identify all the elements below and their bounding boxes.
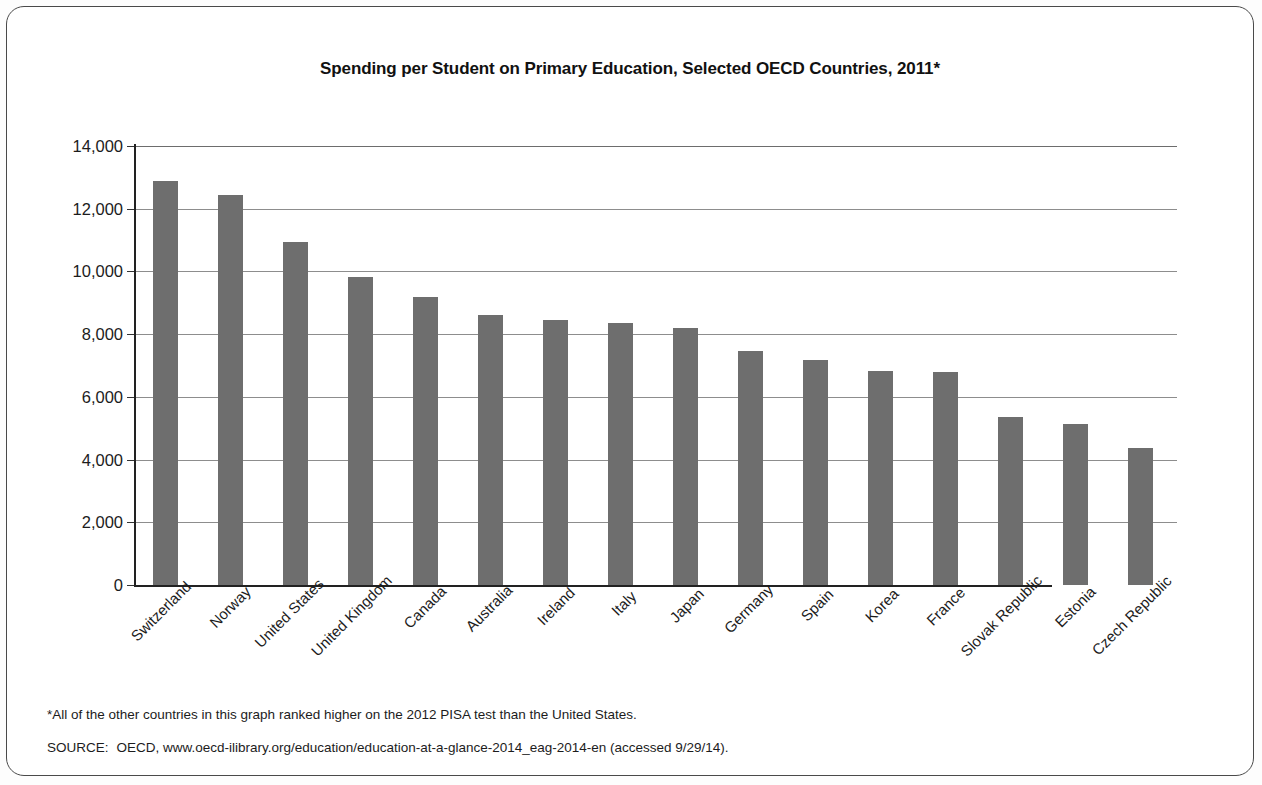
y-tick-label: 12,000 (73, 199, 123, 218)
plot-area: 02,0004,0006,0008,00010,00012,00014,000 (134, 146, 1177, 585)
y-tick-mark (127, 209, 134, 210)
x-tick-label: Slovak Republic (957, 572, 1045, 660)
x-tick-label: Norway (206, 583, 254, 631)
y-tick-mark (127, 397, 134, 398)
bar (218, 195, 243, 585)
x-tick-label: Spain (797, 585, 836, 624)
x-tick-label: Estonia (1051, 583, 1098, 630)
source-note: SOURCE:OECD, www.oecd-ilibrary.org/educa… (47, 740, 729, 755)
bar (738, 351, 763, 585)
gridline (134, 209, 1177, 210)
bar (1063, 424, 1088, 585)
y-tick-label: 10,000 (73, 262, 123, 281)
bar (673, 328, 698, 585)
figure-frame: Spending per Student on Primary Educatio… (6, 6, 1254, 776)
x-tick-label: Italy (608, 587, 639, 618)
x-tick-label: Ireland (534, 584, 578, 628)
y-tick-label: 14,000 (73, 137, 123, 156)
chart-title: Spending per Student on Primary Educatio… (7, 59, 1253, 79)
y-tick-label: 0 (114, 576, 123, 595)
y-tick-mark (127, 334, 134, 335)
x-tick-label: France (923, 584, 968, 629)
bar (933, 372, 958, 585)
bar (543, 320, 568, 585)
y-tick-label: 2,000 (82, 513, 123, 532)
source-label: SOURCE: (47, 740, 109, 755)
bar (1128, 448, 1153, 585)
x-tick-label: Germany (721, 581, 777, 637)
x-tick-label: Australia (462, 581, 515, 634)
bar (868, 371, 893, 585)
y-tick-mark (127, 585, 134, 586)
y-tick-mark (127, 522, 134, 523)
y-tick-label: 8,000 (82, 325, 123, 344)
y-axis-line (134, 144, 136, 587)
y-tick-mark (127, 146, 134, 147)
footnote: *All of the other countries in this grap… (47, 707, 637, 722)
x-axis-labels: SwitzerlandNorwayUnited StatesUnited Kin… (134, 585, 1177, 705)
x-tick-label: Canada (400, 583, 449, 632)
bar (153, 181, 178, 586)
x-tick-label: Czech Republic (1088, 572, 1174, 658)
plot-top-border (134, 146, 1177, 147)
bar (803, 360, 828, 585)
y-tick-label: 6,000 (82, 387, 123, 406)
bar (478, 315, 503, 585)
bar (348, 277, 373, 585)
bar (283, 242, 308, 585)
y-tick-mark (127, 460, 134, 461)
x-tick-label: Japan (666, 585, 707, 626)
y-tick-mark (127, 271, 134, 272)
y-tick-label: 4,000 (82, 450, 123, 469)
x-tick-label: Korea (862, 585, 902, 625)
bar (608, 323, 633, 585)
bar (998, 417, 1023, 585)
bar (413, 297, 438, 585)
x-tick-label: Switzerland (127, 578, 194, 645)
source-text: OECD, www.oecd-ilibrary.org/education/ed… (117, 740, 729, 755)
